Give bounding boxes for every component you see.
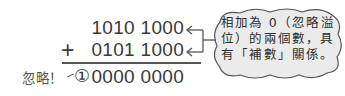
callout-line-1: 相加為 0（忽略溢 — [221, 15, 335, 31]
plus-operator: + — [61, 38, 74, 62]
bracket-arrows — [187, 26, 216, 56]
sum-rule-line — [62, 62, 201, 64]
operand-2: 0101 1000 — [91, 40, 184, 60]
callout-line-3: 有「補數」關係。 — [221, 47, 335, 63]
ignore-label: 忽略！ — [22, 71, 63, 87]
callout-line-2: 位）的兩個數，具 — [221, 31, 335, 47]
overflow-bit-circled: ① — [74, 66, 90, 86]
result: 0000 0000 — [91, 67, 184, 87]
operand-1: 1010 1000 — [91, 18, 184, 38]
